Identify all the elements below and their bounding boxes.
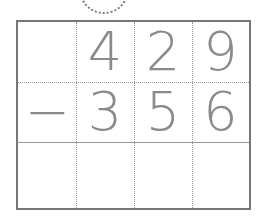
answer-cell-1[interactable]	[18, 142, 76, 208]
minus-sign: −	[18, 82, 76, 142]
subtraction-grid: 4 2 9 − 3 5 6	[16, 20, 251, 210]
minuend-hundreds: 4	[76, 22, 134, 82]
subtrahend-hundreds: 3	[76, 82, 134, 142]
minuend-tens: 2	[134, 22, 192, 82]
subtrahend-tens: 5	[134, 82, 192, 142]
minuend-ones: 9	[192, 22, 249, 82]
dotted-arc-decoration	[80, 0, 128, 14]
subtrahend-ones: 6	[192, 82, 249, 142]
cell-r1-c1	[18, 22, 76, 82]
answer-hundreds[interactable]	[76, 142, 134, 208]
answer-tens[interactable]	[134, 142, 192, 208]
answer-ones[interactable]	[192, 142, 249, 208]
